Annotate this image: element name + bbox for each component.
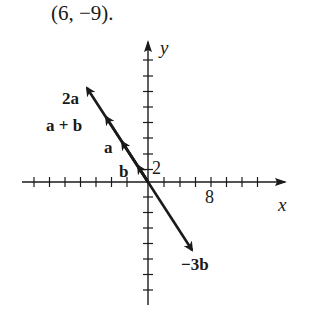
label-a-plus-b: a + b [46, 117, 82, 134]
y-tick-label-2: 2 [152, 159, 161, 177]
vectors [87, 88, 192, 250]
label-a: a [104, 139, 113, 156]
vector-neg-3b [148, 182, 192, 250]
y-axis-label: y [160, 38, 168, 57]
vector-b [138, 166, 148, 182]
x-axis [22, 177, 285, 187]
x-tick-label-8: 8 [205, 188, 214, 206]
label-neg-3b: −3b [181, 256, 209, 273]
label-b: b [119, 163, 128, 180]
label-2a: 2a [62, 90, 79, 107]
x-axis-label: x [278, 195, 286, 214]
